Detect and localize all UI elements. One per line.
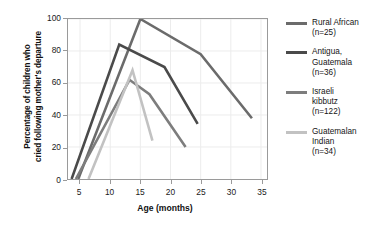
- x-tick-label: 35: [250, 187, 274, 197]
- legend-swatch-icon: [286, 22, 307, 25]
- y-axis-title: Percentage of children whocried followin…: [23, 7, 44, 187]
- legend-swatch-icon: [286, 91, 307, 94]
- legend-label: Israeli kibbutz (n=122): [312, 87, 340, 118]
- x-tick-mark: [262, 180, 263, 184]
- series-lines: [68, 19, 267, 179]
- y-axis-title-line1: Percentage of children who: [23, 44, 32, 148]
- x-axis-title: Age (months): [62, 203, 268, 213]
- chart-legend: Rural African (n=25)Antigua, Guatemala (…: [286, 18, 382, 166]
- y-tick-label: 20: [33, 142, 61, 152]
- y-tick-label: 100: [33, 13, 61, 23]
- series-line-1: [72, 45, 198, 179]
- y-tick-label: 80: [33, 45, 61, 55]
- legend-entry-0[interactable]: Rural African (n=25): [286, 18, 382, 38]
- y-tick-label: 0: [33, 175, 61, 185]
- x-tick-label: 5: [67, 187, 91, 197]
- x-tick-mark: [140, 180, 141, 184]
- legend-entry-2[interactable]: Israeli kibbutz (n=122): [286, 87, 382, 118]
- legend-label: Rural African (n=25): [312, 18, 359, 38]
- plot-area: [67, 18, 268, 180]
- x-tick-label: 20: [159, 187, 183, 197]
- y-tick-label: 40: [33, 110, 61, 120]
- x-tick-label: 25: [189, 187, 213, 197]
- legend-label: Guatemalan Indian (n=34): [312, 127, 357, 158]
- x-tick-label: 15: [128, 187, 152, 197]
- legend-entry-3[interactable]: Guatemalan Indian (n=34): [286, 127, 382, 158]
- y-tick-mark: [63, 180, 67, 181]
- legend-swatch-icon: [286, 51, 307, 54]
- legend-entry-1[interactable]: Antigua, Guatemala (n=36): [286, 47, 382, 78]
- y-tick-label: 60: [33, 77, 61, 87]
- x-tick-mark: [201, 180, 202, 184]
- series-line-2: [76, 80, 186, 179]
- x-tick-mark: [79, 180, 80, 184]
- legend-swatch-icon: [286, 131, 307, 134]
- x-tick-label: 30: [219, 187, 243, 197]
- x-tick-label: 10: [98, 187, 122, 197]
- x-tick-mark: [110, 180, 111, 184]
- chart-figure: Percentage of children whocried followin…: [0, 0, 384, 229]
- x-tick-mark: [171, 180, 172, 184]
- series-line-0: [78, 19, 252, 179]
- legend-label: Antigua, Guatemala (n=36): [312, 47, 352, 78]
- x-tick-mark: [231, 180, 232, 184]
